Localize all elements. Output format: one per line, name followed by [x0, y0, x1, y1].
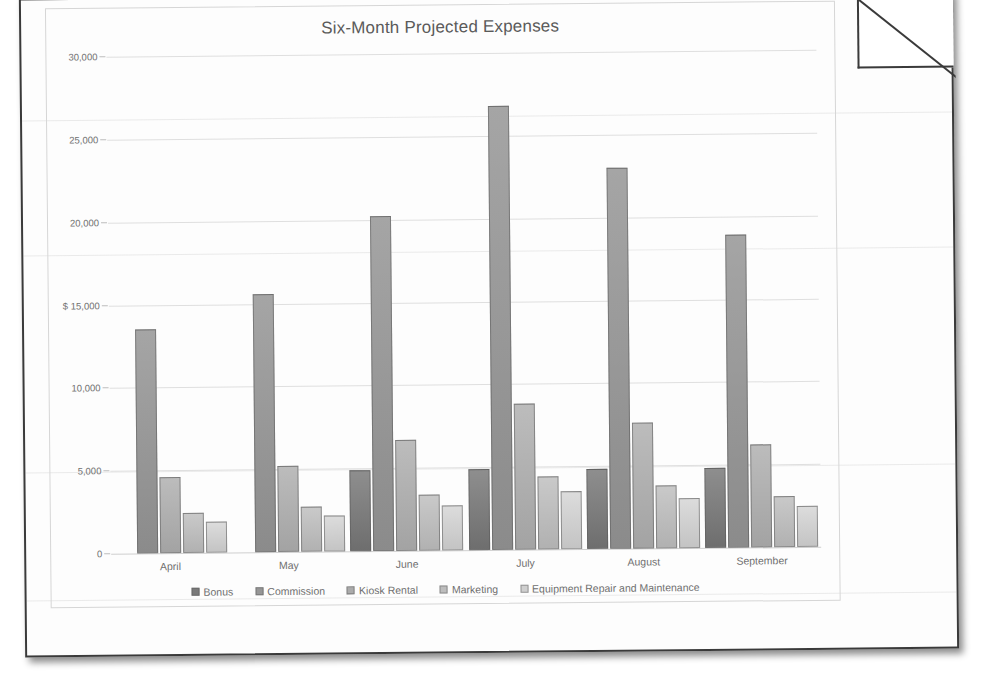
y-tick-mark: [103, 470, 109, 471]
y-tick-label: 10,000: [71, 383, 100, 394]
x-axis-label: May: [230, 558, 348, 571]
bar[interactable]: [324, 515, 345, 552]
bar[interactable]: [679, 498, 700, 548]
legend-label: Marketing: [452, 583, 498, 595]
y-tick-label: 30,000: [68, 51, 97, 62]
bar[interactable]: [513, 404, 535, 550]
scanned-paper-sheet: Six-Month Projected Expenses 05,00010,00…: [19, 0, 959, 657]
legend-item[interactable]: Kiosk Rental: [347, 584, 418, 597]
x-axis-label: June: [348, 557, 466, 570]
x-axis-label: April: [111, 560, 229, 573]
legend-swatch-icon: [191, 588, 199, 596]
legend-label: Commission: [267, 585, 325, 598]
bar[interactable]: [253, 294, 276, 553]
legend-label: Bonus: [203, 585, 233, 597]
bar[interactable]: [560, 491, 582, 549]
chart-title: Six-Month Projected Expenses: [46, 14, 834, 42]
bar[interactable]: [537, 476, 559, 549]
bar-groups: [106, 50, 821, 554]
legend-swatch-icon: [440, 585, 448, 593]
bar[interactable]: [488, 106, 513, 550]
legend-label: Kiosk Rental: [359, 584, 418, 597]
y-tick-label: $ 15,000: [63, 300, 100, 311]
bar[interactable]: [632, 423, 654, 549]
bar-group: [698, 50, 821, 548]
bar[interactable]: [370, 216, 394, 551]
bar-group: [106, 56, 229, 554]
bar[interactable]: [750, 445, 772, 548]
bar[interactable]: [159, 477, 181, 553]
bar[interactable]: [135, 330, 158, 554]
bar[interactable]: [277, 466, 299, 552]
bar[interactable]: [468, 469, 490, 550]
x-axis-label: August: [585, 555, 703, 568]
bar-group: [225, 54, 348, 552]
bar[interactable]: [350, 470, 372, 551]
bar[interactable]: [725, 234, 749, 547]
legend-swatch-icon: [347, 586, 355, 594]
bar[interactable]: [206, 521, 227, 553]
bar[interactable]: [395, 440, 417, 551]
bar[interactable]: [705, 468, 727, 548]
y-tick-mark: [102, 305, 108, 306]
y-tick-label: 5,000: [78, 465, 102, 476]
y-tick-mark: [104, 553, 110, 554]
bar[interactable]: [301, 507, 322, 552]
legend-label: Equipment Repair and Maintenance: [532, 581, 700, 595]
folded-corner-edge: [857, 0, 954, 68]
bar[interactable]: [774, 496, 795, 548]
bar[interactable]: [606, 168, 631, 549]
bar[interactable]: [586, 469, 608, 549]
legend-swatch-icon: [520, 585, 528, 593]
y-tick-label: 0: [97, 548, 102, 559]
legend-swatch-icon: [255, 587, 263, 595]
bar[interactable]: [442, 506, 463, 551]
chart-legend: BonusCommissionKiosk RentalMarketingEqui…: [52, 580, 840, 600]
bar[interactable]: [419, 494, 441, 551]
bar[interactable]: [797, 505, 818, 547]
x-axis-label: September: [703, 554, 821, 567]
legend-item[interactable]: Equipment Repair and Maintenance: [520, 581, 700, 595]
y-tick-label: 20,000: [70, 217, 99, 228]
chart-frame: Six-Month Projected Expenses 05,00010,00…: [45, 1, 841, 609]
bar[interactable]: [656, 485, 678, 548]
y-tick-mark: [101, 222, 107, 223]
bar-group: [461, 52, 584, 550]
y-tick-label: 25,000: [69, 134, 98, 145]
legend-item[interactable]: Marketing: [440, 583, 498, 596]
y-tick-mark: [99, 56, 105, 57]
x-axis-label: July: [466, 556, 584, 569]
y-tick-mark: [100, 139, 106, 140]
y-tick-mark: [103, 387, 109, 388]
legend-item[interactable]: Commission: [255, 585, 325, 598]
bar-group: [343, 53, 466, 551]
bar-group: [580, 51, 703, 549]
bar[interactable]: [182, 513, 203, 553]
plot-area: 05,00010,000$ 15,00020,00025,00030,000: [106, 50, 821, 554]
legend-item[interactable]: Bonus: [191, 585, 233, 597]
x-axis-labels: AprilMayJuneJulyAugustSeptember: [111, 554, 821, 573]
